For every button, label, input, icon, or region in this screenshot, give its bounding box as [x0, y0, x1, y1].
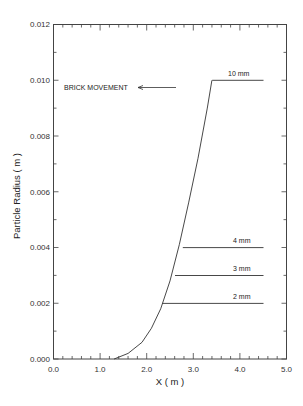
arrow-left-icon [138, 86, 176, 90]
chart: 0.0 1.0 2.0 3.0 4.0 5.0 0.000 0.002 0.00… [0, 0, 303, 406]
x-axis-ticks [54, 25, 287, 360]
label-10mm: 10 mm [228, 70, 250, 77]
x-tick-labels: 0.0 1.0 2.0 3.0 4.0 5.0 [48, 365, 293, 374]
label-4mm: 4 mm [233, 237, 251, 244]
label-3mm: 3 mm [233, 265, 251, 272]
y-tick-1: 0.002 [30, 299, 51, 308]
x-tick-1: 1.0 [94, 365, 106, 374]
y-tick-5: 0.010 [30, 76, 51, 85]
x-axis-title: X ( m ) [156, 376, 185, 387]
growth-curve [114, 80, 212, 359]
x-tick-5: 5.0 [281, 365, 293, 374]
y-axis-ticks [54, 25, 287, 360]
brick-movement-label: BRICK MOVEMENT [64, 84, 129, 91]
plot-frame [54, 25, 287, 360]
y-tick-4: 0.008 [30, 132, 51, 141]
x-tick-3: 3.0 [188, 365, 200, 374]
x-tick-4: 4.0 [234, 365, 246, 374]
y-tick-3: 0.006 [30, 188, 51, 197]
x-tick-2: 2.0 [141, 365, 153, 374]
label-2mm: 2 mm [233, 293, 251, 300]
y-tick-labels: 0.000 0.002 0.004 0.006 0.008 0.010 0.01… [30, 20, 51, 364]
y-tick-2: 0.004 [30, 243, 51, 252]
y-tick-6: 0.012 [30, 20, 51, 29]
y-tick-0: 0.000 [30, 355, 51, 364]
x-tick-0: 0.0 [48, 365, 60, 374]
y-axis-title: Particle Radius ( m ) [11, 153, 22, 239]
